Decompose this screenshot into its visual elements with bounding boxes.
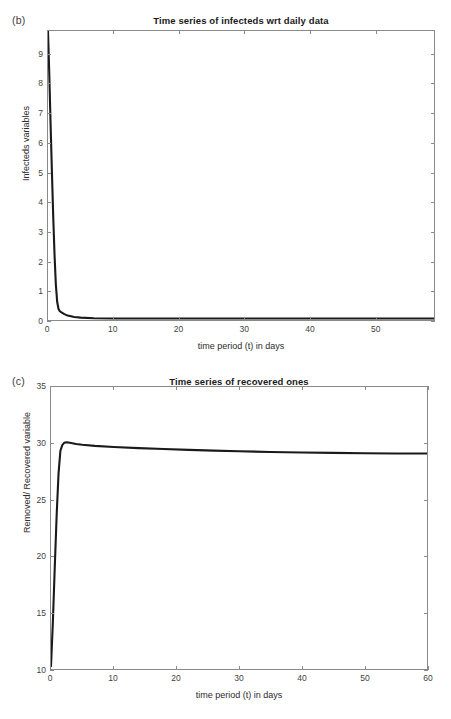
x-tick-label: 0 [48,673,53,683]
x-tick-label: 20 [174,324,183,334]
x-tick-mark [113,666,114,670]
y-tick-label: 4 [23,197,43,207]
x-tick-mark [244,30,245,34]
y-tick-mark [431,321,435,322]
x-tick-label: 0 [45,324,50,334]
x-tick-mark [310,30,311,34]
x-tick-mark [239,386,240,390]
x-tick-mark [428,666,429,670]
infecteds-line-series [48,31,434,320]
y-tick-label: 35 [26,381,46,391]
x-tick-mark [376,30,377,34]
y-axis-title-recovered: Removed/ Recovered variable [22,412,32,533]
y-tick-mark [424,443,428,444]
y-tick-label: 20 [26,551,46,561]
y-tick-mark [47,202,51,203]
x-tick-mark [176,666,177,670]
y-tick-mark [424,613,428,614]
y-tick-mark [424,556,428,557]
y-tick-mark [50,556,54,557]
y-tick-mark [431,262,435,263]
x-tick-mark [302,666,303,670]
y-tick-mark [47,54,51,55]
x-tick-mark [302,386,303,390]
x-tick-label: 50 [360,673,369,683]
x-tick-label: 30 [234,673,243,683]
x-tick-label: 10 [108,673,117,683]
y-tick-mark [431,291,435,292]
y-tick-mark [431,202,435,203]
x-tick-label: 50 [371,324,380,334]
x-tick-mark [113,317,114,321]
y-tick-mark [50,443,54,444]
y-tick-mark [431,54,435,55]
plot-area-infecteds [47,30,435,321]
chart-title-infecteds: Time series of infecteds wrt daily data [47,15,435,26]
y-tick-mark [424,670,428,671]
x-tick-mark [113,386,114,390]
figure-container: (b) Time series of infecteds wrt daily d… [0,0,451,719]
y-tick-mark [424,386,428,387]
y-tick-mark [431,173,435,174]
y-tick-label: 2 [23,257,43,267]
x-tick-label: 30 [240,324,249,334]
x-tick-label: 40 [305,324,314,334]
x-tick-mark [239,666,240,670]
y-tick-mark [47,291,51,292]
y-tick-mark [431,83,435,84]
x-tick-mark [376,317,377,321]
y-tick-mark [431,232,435,233]
recovered-line-series [51,387,427,669]
y-tick-mark [47,321,51,322]
chart-panel-infecteds: (b) Time series of infecteds wrt daily d… [0,0,451,360]
y-tick-mark [431,143,435,144]
x-tick-label: 20 [171,673,180,683]
y-tick-mark [47,83,51,84]
x-tick-mark [365,386,366,390]
x-tick-label: 40 [297,673,306,683]
panel-letter-b: (b) [12,14,25,26]
x-tick-mark [113,30,114,34]
y-tick-mark [47,143,51,144]
y-tick-label: 8 [23,78,43,88]
y-tick-mark [47,113,51,114]
y-tick-label: 1 [23,286,43,296]
y-tick-mark [47,262,51,263]
y-tick-label: 0 [23,316,43,326]
y-tick-label: 3 [23,227,43,237]
x-tick-mark [244,317,245,321]
y-tick-label: 15 [26,608,46,618]
x-tick-mark [179,317,180,321]
y-tick-mark [50,613,54,614]
plot-area-recovered [50,386,428,670]
y-tick-mark [50,386,54,387]
y-tick-mark [47,232,51,233]
y-tick-mark [47,173,51,174]
x-tick-mark [365,666,366,670]
y-tick-mark [50,500,54,501]
chart-panel-recovered: (c) Time series of recovered ones 010203… [0,360,451,719]
x-tick-mark [47,30,48,34]
x-tick-mark [176,386,177,390]
x-axis-title-recovered: time period (t) in days [50,690,428,700]
x-tick-mark [310,317,311,321]
x-axis-title-infecteds: time period (t) in days [47,341,435,351]
y-tick-label: 10 [26,665,46,675]
y-axis-title-infecteds: Infecteds variables [21,105,31,180]
y-tick-mark [431,113,435,114]
y-tick-mark [424,500,428,501]
y-tick-label: 9 [23,49,43,59]
y-tick-mark [50,670,54,671]
x-tick-mark [179,30,180,34]
x-tick-label: 60 [423,673,432,683]
x-tick-mark [428,386,429,390]
panel-letter-c: (c) [12,375,25,387]
x-tick-label: 10 [108,324,117,334]
